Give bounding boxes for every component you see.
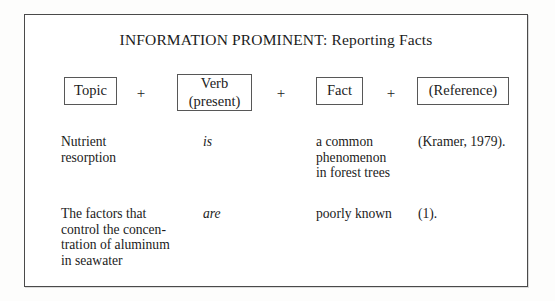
pattern-slot-topic: Topic	[64, 77, 117, 105]
pattern-slot-verb-line1: Verb	[201, 75, 228, 92]
pattern-slot-reference: (Reference)	[417, 77, 509, 105]
pattern-slot-fact: Fact	[316, 77, 363, 105]
pattern-operator-3: +	[384, 86, 398, 101]
example-2-verb: are	[203, 206, 283, 222]
figure-frame: INFORMATION PROMINENT: Reporting Facts T…	[24, 14, 528, 287]
pattern-slot-verb-line2: (present)	[189, 93, 241, 110]
pattern-slot-verb: Verb (present)	[177, 74, 252, 111]
pattern-operator-1: +	[134, 86, 148, 101]
example-1-topic: Nutrient resorption	[61, 134, 201, 165]
pattern-slot-topic-line1: Topic	[74, 82, 107, 99]
example-2-topic: The factors that control the concen- tra…	[61, 206, 211, 268]
example-1-verb: is	[203, 134, 283, 150]
example-2-reference: (1).	[418, 206, 528, 222]
pattern-slot-reference-line1: (Reference)	[429, 82, 497, 99]
pattern-operator-2: +	[274, 86, 288, 101]
pattern-slot-fact-line1: Fact	[327, 82, 352, 99]
figure-root: INFORMATION PROMINENT: Reporting Facts T…	[0, 0, 555, 301]
example-1-reference: (Kramer, 1979).	[418, 134, 528, 150]
